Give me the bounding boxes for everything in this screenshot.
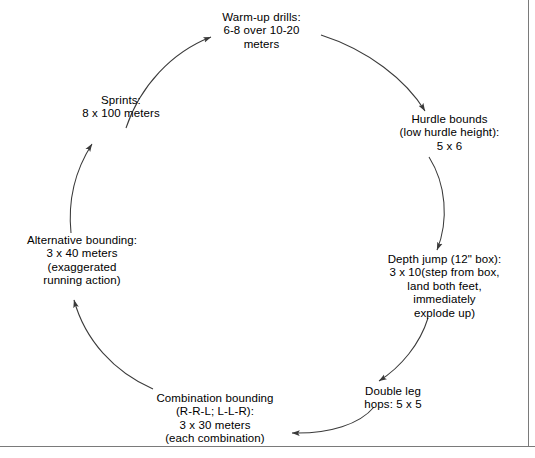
node-alternative-bounding-line-2: 3 x 40 meters <box>10 247 154 260</box>
node-combination-bounding-line-1: Combination bounding <box>135 392 295 405</box>
node-alternative-bounding-line-3: (exaggerated <box>10 261 154 274</box>
node-warm-up-drills-line-1: Warm-up drills: <box>189 11 334 24</box>
node-combination-bounding-line-3: 3 x 30 meters <box>135 419 295 432</box>
node-hurdle-bounds-line-2: (low hurdle height): <box>372 126 527 139</box>
node-alternative-bounding: Alternative bounding: 3 x 40 meters (exa… <box>10 234 154 288</box>
node-depth-jump-line-2: 3 x 10(step from box, <box>357 266 532 279</box>
diagram-canvas: Warm-up drills: 6-8 over 10-20 meters Hu… <box>0 0 535 458</box>
arrow-depthjump-to-doublehops <box>379 318 428 381</box>
page-right-rule <box>528 0 529 447</box>
node-depth-jump: Depth jump (12" box): 3 x 10(step from b… <box>357 253 532 320</box>
node-depth-jump-line-1: Depth jump (12" box): <box>357 253 532 266</box>
node-double-leg-hops: Double leg hops: 5 x 5 <box>340 385 446 412</box>
node-alternative-bounding-line-4: running action) <box>10 274 154 287</box>
cycle-arrows <box>0 0 535 458</box>
arrow-hurdle-to-depthjump <box>429 157 444 250</box>
node-combination-bounding-line-2: (R-R-L; L-L-R): <box>135 405 295 418</box>
node-double-leg-hops-line-1: Double leg <box>340 385 446 398</box>
node-warm-up-drills-line-3: meters <box>189 38 334 51</box>
node-alternative-bounding-line-1: Alternative bounding: <box>10 234 154 247</box>
node-double-leg-hops-line-2: hops: 5 x 5 <box>340 398 446 411</box>
node-depth-jump-line-4: immediately <box>357 293 532 306</box>
node-combination-bounding-line-4: (each combination) <box>135 432 295 445</box>
arrow-combination-to-alternative <box>74 300 153 389</box>
node-hurdle-bounds: Hurdle bounds (low hurdle height): 5 x 6 <box>372 113 527 153</box>
node-sprints: Sprints: 8 x 100 meters <box>60 94 182 121</box>
node-hurdle-bounds-line-1: Hurdle bounds <box>372 113 527 126</box>
node-sprints-line-2: 8 x 100 meters <box>60 107 182 120</box>
page-bottom-rule <box>0 446 535 447</box>
node-warm-up-drills: Warm-up drills: 6-8 over 10-20 meters <box>189 11 334 51</box>
node-combination-bounding: Combination bounding (R-R-L; L-L-R): 3 x… <box>135 392 295 446</box>
arrow-alternative-to-sprints <box>70 144 92 233</box>
node-warm-up-drills-line-2: 6-8 over 10-20 <box>189 24 334 37</box>
node-hurdle-bounds-line-3: 5 x 6 <box>372 140 527 153</box>
arrow-warmup-to-hurdle <box>321 35 425 111</box>
node-depth-jump-line-5: explode up) <box>357 307 532 320</box>
node-sprints-line-1: Sprints: <box>60 94 182 107</box>
node-depth-jump-line-3: land both feet, <box>357 280 532 293</box>
